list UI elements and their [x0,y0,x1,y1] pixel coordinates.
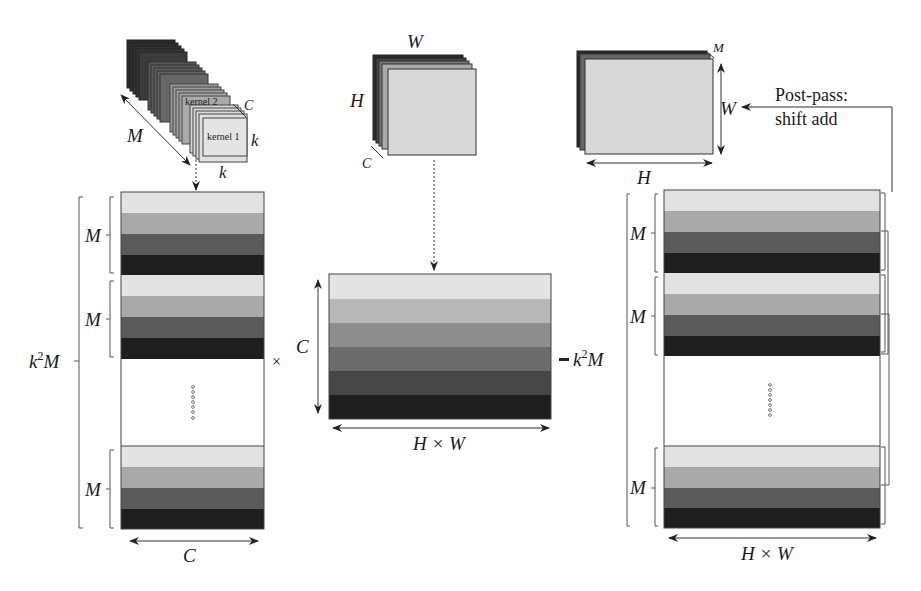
left-weight-matrix [121,192,264,529]
right-group-bracket-2 [655,277,658,355]
kernel-1-label: kernel 1 [207,131,240,142]
kernel-C-label: C [244,98,254,113]
middle-rows-label: k2M [573,347,604,370]
left-group-label-2: M [84,309,102,330]
left-group-bracket-1 [110,197,114,273]
left-width-label: C [183,545,196,566]
im2col-convolution-diagram: kernel 2 kernel 1 M C k k W H C M W H Po… [0,0,921,591]
output-tensor [577,51,713,154]
equals-operator [559,358,569,361]
middle-width-label: H × W [412,433,467,454]
input-W-label: W [407,31,425,52]
right-group-bracket-1 [655,194,658,272]
left-outer-label: k2M [29,349,60,372]
input-C-label: C [362,156,372,171]
output-W-label: W [720,98,738,119]
left-group-bracket-3 [110,450,114,528]
left-ellipsis-dots [192,386,195,420]
output-M-label: M [712,40,725,55]
left-group-bracket-2 [110,281,114,357]
left-group-label-3: M [84,479,102,500]
right-group-bracket-3 [655,448,658,526]
kernel-k-bottom-label: k [219,163,227,182]
kernel-M-label: M [126,125,144,146]
middle-height-label: C [296,336,309,357]
left-group-label-1: M [84,225,102,246]
right-output-matrix [664,190,880,528]
kernel-2-label: kernel 2 [185,96,218,107]
output-H-label: H [636,167,652,188]
left-outer-bracket [79,197,83,528]
right-group-label-2: M [629,306,647,327]
kernel-k-side-label: k [251,131,259,150]
multiply-operator: × [272,353,281,370]
post-pass-label-line1: Post-pass: [775,85,848,105]
right-width-label: H × W [740,543,795,564]
right-ellipsis-dots [769,384,772,417]
middle-input-matrix [329,274,551,419]
post-pass-label-line2: shift add [775,109,838,129]
input-C-arrow [371,146,383,158]
input-tensor [373,55,476,155]
input-H-label: H [349,90,365,111]
right-group-label-1: M [629,223,647,244]
right-group-label-3: M [629,477,647,498]
shift-add-brackets [881,193,889,524]
